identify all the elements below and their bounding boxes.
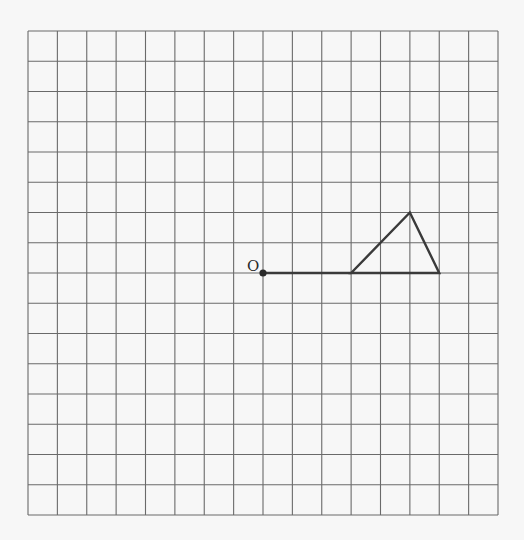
origin-point <box>259 269 266 276</box>
origin-label: O <box>247 257 259 275</box>
grid-diagram: O <box>0 0 524 540</box>
